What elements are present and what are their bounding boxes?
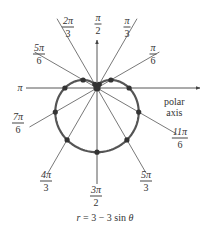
label-pi: π — [17, 83, 22, 93]
label-5pi-over-3: 5π3 — [140, 170, 152, 193]
label-pi-over-3: π3 — [123, 16, 130, 39]
label-3pi-over-2: 3π2 — [90, 185, 102, 208]
label-7pi-over-6: 7π6 — [12, 112, 24, 135]
label-2pi-over-3: 2π3 — [62, 16, 74, 39]
equation-caption: r = 3 − 3 sin θ — [0, 212, 210, 223]
label-5pi-over-6: 5π6 — [33, 43, 45, 66]
label-pi-over-6: π6 — [149, 43, 156, 66]
label-11pi-over-6: 11π6 — [172, 127, 188, 150]
label-pi-over-2: π2 — [94, 13, 101, 36]
polar-axis-label: polar axis — [164, 96, 185, 118]
label-4pi-over-3: 4π3 — [40, 170, 52, 193]
